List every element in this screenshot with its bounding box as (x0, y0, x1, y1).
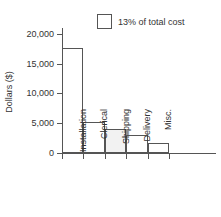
y-axis-tick-label: 0 (49, 149, 54, 158)
chart-legend: 13% of total cost (97, 14, 185, 29)
x-axis-label-delivery: Delivery (141, 109, 153, 161)
y-axis-tick-label: 15,000 (26, 60, 54, 69)
legend-swatch-icon (97, 14, 112, 29)
y-axis-tick-label: 5,000 (31, 119, 54, 128)
x-axis-label-shipping: Shipping (120, 109, 132, 161)
y-axis-title: Dollars ($) (2, 62, 16, 122)
x-axis-label-clerical: Clerical (98, 109, 110, 161)
x-axis-label-installation: Installation (77, 109, 89, 161)
legend-entry-label: 13% of total cost (118, 17, 185, 27)
y-axis-tick-label: 10,000 (26, 89, 54, 98)
x-axis-label-misc: Misc. (162, 109, 174, 161)
y-axis-title-label: Dollars ($) (4, 71, 14, 113)
y-axis-tick-label: 20,000 (26, 30, 54, 39)
bar-chart: 13% of total cost Dollars ($) 05,00010,0… (0, 0, 221, 217)
x-axis-tick (62, 154, 63, 159)
